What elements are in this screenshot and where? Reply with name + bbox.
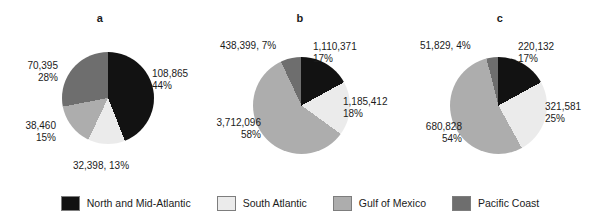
- legend-label-pacific-coast: Pacific Coast: [478, 197, 539, 209]
- legend-item-north-and-mid-atlantic: North and Mid-Atlantic: [61, 196, 191, 211]
- pie-panel-b: b 438,399, 7% 1,110,371 17% 1,185,412 18…: [200, 0, 400, 185]
- legend-label-north-and-mid-atlantic: North and Mid-Atlantic: [87, 197, 191, 209]
- legend-item-gulf-of-mexico: Gulf of Mexico: [333, 196, 426, 211]
- pie-b-north-value: 1,110,371: [313, 41, 357, 52]
- pie-c-label-north-and-mid-atlantic: 220,132 17%: [518, 41, 576, 64]
- legend-swatch-south-atlantic: [217, 196, 236, 211]
- pie-c-label-south-atlantic: 321,581 25%: [545, 101, 600, 124]
- pie-c-south-value: 321,581: [545, 101, 581, 112]
- legend-item-south-atlantic: South Atlantic: [217, 196, 307, 211]
- pie-c-gulf-value: 680,828: [426, 121, 462, 132]
- pie-c: [450, 57, 547, 154]
- legend-swatch-gulf-of-mexico: [333, 196, 352, 211]
- panel-c-title: c: [400, 12, 600, 24]
- pie-b-label-north-and-mid-atlantic: 1,110,371 17%: [313, 41, 377, 64]
- legend-label-gulf-of-mexico: Gulf of Mexico: [359, 197, 426, 209]
- pie-b-south-percent: 18%: [343, 108, 363, 119]
- pie-a-gulf-value: 38,460: [25, 120, 56, 131]
- pie-c-north-value: 220,132: [518, 41, 554, 52]
- pie-b-north-percent: 17%: [313, 53, 333, 64]
- pie-a-label-south-atlantic: 32,398, 13%: [56, 160, 146, 172]
- pie-panel-a: a 70,395 28% 108,865 44% 38,460 15% 32,3…: [0, 0, 200, 185]
- pie-b-south-value: 1,185,412: [343, 96, 388, 107]
- pie-a-south-value: 32,398, 13%: [73, 160, 129, 171]
- panel-b-title: b: [200, 12, 400, 24]
- pie-a-label-gulf-of-mexico: 38,460 15%: [2, 120, 56, 143]
- pie-a: [62, 52, 154, 144]
- legend-label-south-atlantic: South Atlantic: [243, 197, 307, 209]
- pie-b-label-south-atlantic: 1,185,412 18%: [343, 96, 401, 119]
- pie-a-gulf-percent: 15%: [36, 132, 56, 143]
- pie-c-gulf-percent: 54%: [442, 133, 462, 144]
- pie-a-pacific-value: 70,395: [27, 60, 58, 71]
- pie-a-pacific-percent: 28%: [38, 72, 58, 83]
- pie-c-pacific-value: 51,829, 4%: [420, 40, 471, 51]
- legend-swatch-pacific-coast: [452, 196, 471, 211]
- pie-b-label-gulf-of-mexico: 3,712,096 58%: [195, 117, 261, 140]
- pie-b: [253, 57, 350, 154]
- chart-legend: North and Mid-Atlantic South Atlantic Gu…: [0, 188, 600, 218]
- pie-a-north-percent: 44%: [152, 80, 172, 91]
- pie-panel-c: c 51,829, 4% 220,132 17% 321,581 25% 680…: [400, 0, 600, 185]
- pie-c-label-pacific-coast: 51,829, 4%: [420, 40, 500, 52]
- pie-chart-figure: a 70,395 28% 108,865 44% 38,460 15% 32,3…: [0, 0, 600, 224]
- legend-item-pacific-coast: Pacific Coast: [452, 196, 539, 211]
- pie-c-label-gulf-of-mexico: 680,828 54%: [400, 121, 462, 144]
- pie-b-gulf-percent: 58%: [241, 129, 261, 140]
- pie-c-south-percent: 25%: [545, 113, 565, 124]
- pie-c-north-percent: 17%: [518, 53, 538, 64]
- legend-swatch-north-and-mid-atlantic: [61, 196, 80, 211]
- pie-a-north-value: 108,865: [152, 68, 188, 79]
- pie-b-label-pacific-coast: 438,399, 7%: [220, 40, 306, 52]
- pie-a-label-pacific-coast: 70,395 28%: [6, 60, 58, 83]
- pie-b-gulf-value: 3,712,096: [217, 117, 262, 128]
- panel-a-title: a: [0, 12, 200, 24]
- pie-b-pacific-value: 438,399, 7%: [220, 40, 276, 51]
